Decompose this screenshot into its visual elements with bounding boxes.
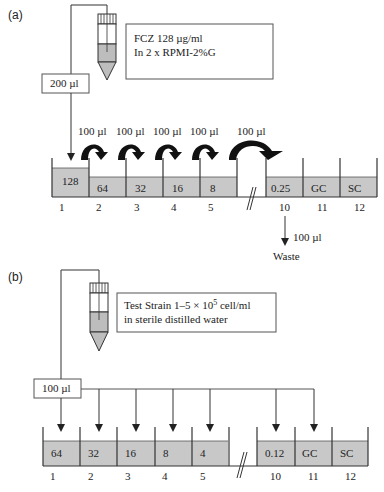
reagent-line-1: Test Strain 1–5 × 105 cell/ml [124,298,250,312]
svg-text:100 µl: 100 µl [153,125,182,137]
panel-a-label: (a) [8,8,23,22]
svg-text:11: 11 [308,470,319,482]
svg-text:2: 2 [96,201,102,213]
break-mark-icon [247,187,253,210]
svg-text:GC: GC [311,182,326,194]
svg-text:12: 12 [345,470,356,482]
svg-text:3: 3 [134,201,140,213]
plate-b-values: 64 32 16 8 4 0.12 GC SC [51,447,353,459]
svg-text:SC: SC [348,182,361,194]
reagent-box-a: FCZ 128 µg/ml In 2 x RPMI-2%G [126,24,273,79]
svg-text:0.12: 0.12 [265,447,284,459]
svg-text:1: 1 [50,470,56,482]
svg-text:11: 11 [317,201,328,213]
svg-text:32: 32 [135,182,146,194]
svg-text:10: 10 [279,201,291,213]
panel-b-label: (b) [8,270,23,284]
transfer-volume-label: 200 µl [50,77,79,89]
reagent-box-b: Test Strain 1–5 × 105 cell/ml in sterile… [117,293,276,332]
svg-text:5: 5 [200,470,206,482]
svg-text:4: 4 [162,470,168,482]
svg-text:12: 12 [354,201,365,213]
curved-transfer-arrow-icon [81,140,283,160]
svg-text:1: 1 [59,201,65,213]
break-mark-icon [237,452,244,478]
svg-text:GC: GC [302,447,317,459]
pipette-tube-icon [61,270,108,379]
svg-text:100 µl: 100 µl [116,125,145,137]
pipette-tube-icon [71,5,116,80]
waste-volume: 100 µl [293,231,322,243]
transfer-volume-label: 100 µl [42,382,71,394]
waste-label: Waste [273,250,300,262]
reagent-line-1: FCZ 128 µg/ml [134,32,203,44]
svg-text:5: 5 [208,201,214,213]
svg-text:3: 3 [125,470,131,482]
svg-text:100 µl: 100 µl [237,125,266,137]
svg-text:4: 4 [171,201,177,213]
reagent-line-2: In 2 x RPMI-2%G [134,46,216,58]
svg-text:16: 16 [172,182,184,194]
svg-text:2: 2 [88,470,94,482]
svg-text:8: 8 [210,182,216,194]
svg-text:64: 64 [97,182,109,194]
plate-b-numbers: 1 2 3 4 5 10 11 12 [50,470,356,482]
svg-text:8: 8 [163,447,169,459]
plate-a-numbers: 1 2 3 4 5 10 11 12 [59,201,365,213]
transfer-volume-box-a: 200 µl [42,74,89,93]
svg-text:16: 16 [125,447,137,459]
transfer-volume-box-b: 100 µl [34,379,81,398]
distribution-arrows-b [61,389,314,428]
serial-transfer-labels: 100 µl 100 µl 100 µl 100 µl 100 µl [78,125,266,137]
reagent-line-2: in sterile distilled water [124,313,228,325]
svg-text:0.25: 0.25 [271,182,291,194]
svg-text:64: 64 [51,447,63,459]
svg-text:SC: SC [340,447,353,459]
svg-text:128: 128 [62,175,79,187]
svg-text:100 µl: 100 µl [78,125,107,137]
svg-text:32: 32 [88,447,99,459]
svg-text:4: 4 [200,447,206,459]
svg-text:100 µl: 100 µl [190,125,219,137]
svg-text:10: 10 [270,470,282,482]
